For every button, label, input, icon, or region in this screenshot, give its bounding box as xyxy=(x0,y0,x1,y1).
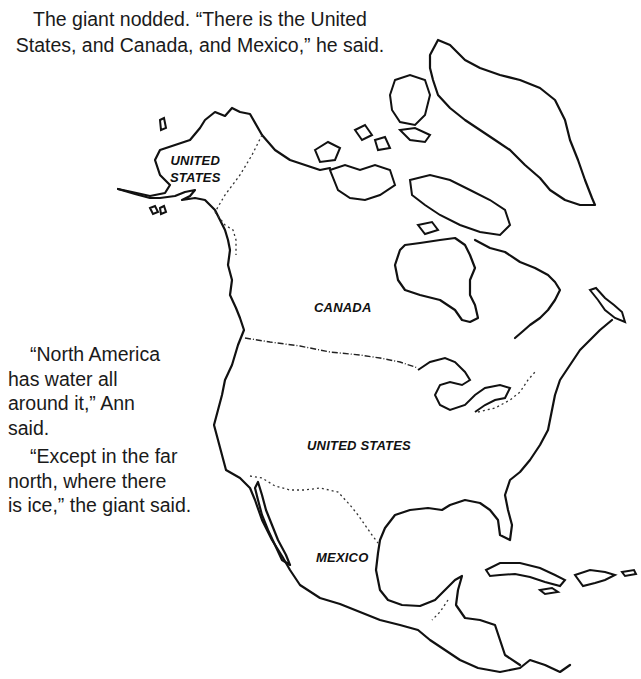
label-mexico: MEXICO xyxy=(316,550,368,565)
great-lakes xyxy=(418,358,510,412)
side-p2-line2: north, where there xyxy=(8,470,166,492)
side-paragraph-1: “North America has water all around it,”… xyxy=(8,342,238,440)
us-canada-border xyxy=(245,338,418,368)
label-alaska: UNITED STATES xyxy=(170,152,221,186)
newfoundland xyxy=(590,288,625,322)
ellesmere-island xyxy=(390,75,430,125)
victoria-island xyxy=(330,165,395,200)
aleutian-islands xyxy=(150,206,166,214)
jamaica xyxy=(540,588,558,594)
southampton-island xyxy=(418,222,438,234)
side-text: “North America has water all around it,”… xyxy=(8,342,238,522)
side-p2-line1: “Except in the far xyxy=(8,445,177,467)
alaska-canada-border xyxy=(215,135,262,212)
label-alaska-line1: UNITED xyxy=(170,152,221,169)
label-united-states: UNITED STATES xyxy=(307,438,411,453)
baffin-island xyxy=(410,175,510,235)
side-p1-line2: has water all xyxy=(8,368,117,390)
north-america-map xyxy=(0,0,641,679)
labrador-coast xyxy=(475,240,560,338)
gulf-coast xyxy=(378,320,612,553)
hudson-bay xyxy=(395,238,478,322)
side-paragraph-2: “Except in the far north, where there is… xyxy=(8,444,238,518)
alaska-south-coast xyxy=(118,189,230,250)
side-p1-line3: around it,” Ann xyxy=(8,392,135,414)
greenland xyxy=(430,40,595,205)
side-p2-line3: is ice,” the giant said. xyxy=(8,494,191,516)
arctic-island-small-2 xyxy=(375,137,390,150)
side-p1-line1: “North America xyxy=(8,343,160,365)
alaska-coast xyxy=(118,108,330,196)
guatemala-border xyxy=(432,600,448,620)
arctic-island-small-1 xyxy=(355,125,372,140)
devon-island xyxy=(400,128,430,142)
gulf-west-coast xyxy=(376,553,520,665)
us-canada-east-border xyxy=(478,372,535,412)
label-alaska-line2: STATES xyxy=(170,169,221,186)
baja-california xyxy=(255,482,290,565)
banks-island xyxy=(315,142,340,162)
label-canada: CANADA xyxy=(314,300,372,315)
side-p1-line4: said. xyxy=(8,417,49,439)
st-lawrence-island xyxy=(160,118,166,130)
hispaniola xyxy=(575,570,615,586)
cuba xyxy=(486,563,565,586)
puerto-rico xyxy=(622,570,636,576)
pacific-coast xyxy=(214,250,570,672)
